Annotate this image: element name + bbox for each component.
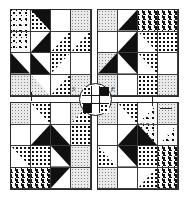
- corner-mark-right: E: [111, 86, 115, 92]
- quilt-cell: [51, 103, 71, 125]
- quilt-cell: [98, 168, 118, 190]
- quilt-cell: [118, 53, 138, 75]
- leader-line-right: [160, 108, 172, 109]
- triangle-overlay: [158, 125, 177, 146]
- quilt-cell: [51, 10, 71, 32]
- triangle-overlay: [98, 53, 117, 74]
- quilt-cell: [138, 168, 158, 190]
- quilt-cell: [158, 32, 178, 54]
- quilt-cell: [11, 10, 31, 32]
- triangle-overlay: [98, 146, 117, 167]
- quilt-cell: [51, 146, 71, 168]
- triangle-overlay: [31, 10, 50, 31]
- triangle-overlay: [118, 146, 137, 167]
- quilt-cell: [138, 32, 158, 54]
- center-medallion[interactable]: [79, 83, 112, 116]
- triangle-overlay: [138, 103, 157, 124]
- quilt-cell: [71, 53, 91, 75]
- cross-stroke: [82, 95, 109, 96]
- quilt-cell: [158, 75, 178, 97]
- quilt-cell: [51, 32, 71, 54]
- quilt-cell: [71, 146, 91, 168]
- quilt-block-bottom-right[interactable]: [97, 102, 179, 190]
- quilt-cell: [138, 10, 158, 32]
- triangle-overlay: [138, 125, 157, 146]
- quilt-cell: [51, 125, 71, 147]
- quilt-cell: [11, 125, 31, 147]
- quilt-cell: [71, 10, 91, 32]
- triangle-overlay: [138, 32, 157, 53]
- triangle-overlay: [31, 53, 50, 74]
- quilt-cell: [71, 32, 91, 54]
- cell-grid: [11, 10, 91, 96]
- leader-line-top: [152, 96, 153, 106]
- quilt-cell: [118, 125, 138, 147]
- triangle-overlay: [31, 103, 50, 124]
- triangle-overlay: [51, 146, 70, 167]
- cell-grid: [98, 10, 178, 96]
- quilt-cell: [158, 103, 178, 125]
- quilt-cell: [158, 53, 178, 75]
- quilt-block-bottom-left[interactable]: [10, 102, 92, 190]
- quilt-cell: [118, 168, 138, 190]
- quilt-block-top-right[interactable]: [97, 9, 179, 97]
- cross-stroke: [82, 103, 109, 104]
- triangle-overlay: [118, 125, 137, 146]
- leader-line-bottom-left: [31, 92, 32, 101]
- quilt-cell: [31, 32, 51, 54]
- cell-grid: [98, 103, 178, 189]
- quilt-cell: [31, 75, 51, 97]
- quilt-cell: [138, 146, 158, 168]
- triangle-overlay: [118, 103, 137, 124]
- quilt-cell: [118, 75, 138, 97]
- triangle-overlay: [51, 32, 70, 53]
- triangle-overlay: [71, 32, 90, 53]
- medallion-quadrant: [100, 104, 109, 113]
- triangle-overlay: [118, 32, 137, 53]
- quilt-cell: [98, 32, 118, 54]
- triangle-overlay: [51, 75, 70, 96]
- quilt-cell: [51, 75, 71, 97]
- quilt-block-top-left[interactable]: [10, 9, 92, 97]
- quilt-cell: [71, 168, 91, 190]
- triangle-overlay: [138, 168, 157, 189]
- quilt-cell: [98, 10, 118, 32]
- triangle-overlay: [51, 53, 70, 74]
- quilt-cell: [98, 53, 118, 75]
- corner-mark-left: S: [72, 86, 75, 92]
- triangle-overlay: [51, 168, 70, 189]
- triangle-overlay: [31, 32, 50, 53]
- quilt-cell: [158, 125, 178, 147]
- quilt-cell: [98, 125, 118, 147]
- quilt-cell: [158, 168, 178, 190]
- quilt-cell: [11, 75, 31, 97]
- quilt-cell: [98, 146, 118, 168]
- quilt-cell: [158, 10, 178, 32]
- triangle-overlay: [11, 146, 30, 167]
- quilt-cell: [31, 146, 51, 168]
- quilt-cell: [11, 53, 31, 75]
- triangle-overlay: [51, 125, 70, 146]
- quilt-cell: [71, 125, 91, 147]
- triangle-overlay: [118, 53, 137, 74]
- quilt-cell: [138, 103, 158, 125]
- quilt-cell: [31, 53, 51, 75]
- triangle-overlay: [11, 53, 30, 74]
- triangle-overlay: [138, 53, 157, 74]
- triangle-overlay: [31, 75, 50, 96]
- quilt-cell: [138, 75, 158, 97]
- quilt-cell: [118, 10, 138, 32]
- quilt-cell: [11, 168, 31, 190]
- quilt-cell: [11, 146, 31, 168]
- quilt-cell: [11, 103, 31, 125]
- quilt-cell: [118, 103, 138, 125]
- quilt-diagram: S E: [0, 0, 190, 199]
- quilt-cell: [158, 146, 178, 168]
- triangle-overlay: [118, 10, 137, 31]
- quilt-cell: [31, 125, 51, 147]
- quilt-cell: [118, 32, 138, 54]
- cell-grid: [11, 103, 91, 189]
- quilt-cell: [31, 103, 51, 125]
- quilt-cell: [138, 53, 158, 75]
- quilt-cell: [118, 146, 138, 168]
